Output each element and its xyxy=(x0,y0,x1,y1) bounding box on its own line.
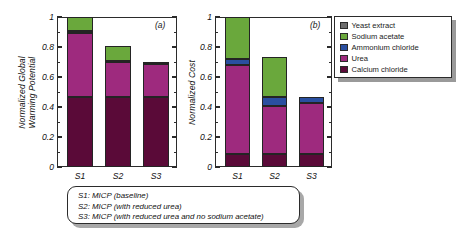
bar-segment xyxy=(225,17,250,59)
legend-label: Ammonium chloride xyxy=(352,43,419,52)
y-tick-major-right xyxy=(327,166,332,167)
bar-segment xyxy=(299,97,324,103)
bar-segment xyxy=(105,46,131,61)
bar-a-S1 xyxy=(67,17,93,167)
y-tick-minor-right xyxy=(329,152,332,153)
y-tick-label: 0 xyxy=(191,162,212,172)
bar-segment xyxy=(225,65,250,154)
y-tick-label: 0.8 xyxy=(33,42,54,52)
bar-segment xyxy=(299,103,324,153)
legend-label: Calcium chloride xyxy=(352,65,408,74)
y-tick-minor-right xyxy=(329,62,332,63)
bar-segment xyxy=(225,154,250,168)
y-tick-major-right xyxy=(327,136,332,137)
y-tick-minor xyxy=(215,92,218,93)
x-tick-label: S3 xyxy=(144,171,168,181)
bar-segment xyxy=(262,97,287,105)
y-tick-major-right xyxy=(327,106,332,107)
x-tick-label: S2 xyxy=(106,171,130,181)
bar-segment xyxy=(225,59,250,65)
bar-a-S3 xyxy=(143,17,169,167)
legend-swatch-icon xyxy=(340,22,348,30)
y-tick-major-right xyxy=(172,16,177,17)
y-axis-label-b: Normalized Cost xyxy=(187,45,197,140)
y-tick-minor xyxy=(57,62,60,63)
y-tick-minor-right xyxy=(174,152,177,153)
x-tick-label: S1 xyxy=(68,171,92,181)
legend-item-yeast-extract: Yeast extract xyxy=(340,21,395,30)
y-tick-major xyxy=(215,46,220,47)
legend-swatch-icon xyxy=(340,33,348,41)
y-tick-major xyxy=(57,136,62,137)
legend-label: Sodium acetate xyxy=(352,32,405,41)
legend-label: Yeast extract xyxy=(352,21,396,30)
y-tick-label: 1 xyxy=(191,12,212,22)
bar-segment xyxy=(143,64,169,96)
y-tick-major xyxy=(57,16,62,17)
x-tick-label: S1 xyxy=(226,171,250,181)
legend-item-ammonium-chloride: Ammonium chloride xyxy=(340,43,419,52)
y-tick-major xyxy=(57,106,62,107)
y-tick-major-right xyxy=(172,76,177,77)
y-tick-major-right xyxy=(172,106,177,107)
y-tick-minor xyxy=(215,152,218,153)
y-tick-label: 0.2 xyxy=(191,132,212,142)
bar-segment xyxy=(67,17,93,31)
y-tick-major xyxy=(215,76,220,77)
y-tick-minor xyxy=(215,32,218,33)
legend-label: Urea xyxy=(352,54,368,63)
bar-segment xyxy=(143,62,169,64)
y-tick-major-right xyxy=(327,76,332,77)
bar-segment xyxy=(143,97,169,168)
y-tick-minor xyxy=(215,122,218,123)
bar-segment xyxy=(262,106,287,155)
y-tick-major xyxy=(57,46,62,47)
legend-item-calcium-chloride: Calcium chloride xyxy=(340,65,408,74)
y-tick-label: 0.4 xyxy=(33,102,54,112)
legend-swatch-icon xyxy=(340,55,348,63)
y-tick-label: 1 xyxy=(33,12,54,22)
caption-line: S2: MICP (with reduced urea) xyxy=(78,202,182,211)
bar-segment xyxy=(262,154,287,167)
bar-segment xyxy=(105,62,131,97)
x-tick-label: S3 xyxy=(300,171,324,181)
y-tick-minor-right xyxy=(174,32,177,33)
y-tick-minor-right xyxy=(174,62,177,63)
y-tick-major xyxy=(215,16,220,17)
bar-b-S1 xyxy=(225,17,250,167)
legend-swatch-icon xyxy=(340,44,348,52)
y-tick-minor-right xyxy=(329,92,332,93)
bar-segment xyxy=(262,57,287,98)
y-tick-major xyxy=(57,166,62,167)
y-tick-minor-right xyxy=(329,122,332,123)
y-tick-major xyxy=(57,76,62,77)
bar-b-S3 xyxy=(299,17,324,167)
y-tick-minor-right xyxy=(329,32,332,33)
x-tick-label: S2 xyxy=(263,171,287,181)
legend-item-sodium-acetate: Sodium acetate xyxy=(340,32,404,41)
caption-line: S3: MICP (with reduced urea and no sodiu… xyxy=(78,212,264,221)
y-tick-major-right xyxy=(327,16,332,17)
y-tick-major-right xyxy=(327,46,332,47)
y-tick-major xyxy=(215,166,220,167)
y-tick-minor xyxy=(57,92,60,93)
y-axis-label-a: Normalized GlobalWarming Potential xyxy=(17,45,37,140)
legend-item-urea: Urea xyxy=(340,54,368,63)
y-tick-label: 0 xyxy=(33,162,54,172)
y-tick-label: 0.4 xyxy=(191,102,212,112)
caption-line: S1: MICP (baseline) xyxy=(78,191,148,200)
bar-segment xyxy=(299,154,324,168)
bar-b-S2 xyxy=(262,17,287,167)
y-tick-label: 0.6 xyxy=(191,72,212,82)
bar-segment xyxy=(105,97,131,168)
y-tick-label: 0.8 xyxy=(191,42,212,52)
y-tick-major-right xyxy=(172,166,177,167)
y-tick-major-right xyxy=(172,136,177,137)
y-tick-label: 0.2 xyxy=(33,132,54,142)
bar-a-S2 xyxy=(105,17,131,167)
bar-segment xyxy=(67,33,93,97)
y-tick-minor xyxy=(215,62,218,63)
y-tick-minor xyxy=(57,122,60,123)
bar-segment xyxy=(67,97,93,168)
y-tick-minor xyxy=(57,32,60,33)
